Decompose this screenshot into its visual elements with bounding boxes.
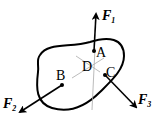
label-c: C bbox=[106, 65, 115, 80]
point-b bbox=[60, 83, 64, 87]
label-a: A bbox=[96, 45, 107, 60]
label-f3: F3 bbox=[137, 92, 151, 109]
label-f1: F1 bbox=[101, 8, 115, 25]
label-d: D bbox=[82, 59, 92, 74]
label-b: B bbox=[56, 68, 65, 83]
label-f2: F2 bbox=[2, 96, 16, 113]
force-diagram: A B C D F1 F2 F3 bbox=[0, 0, 158, 118]
